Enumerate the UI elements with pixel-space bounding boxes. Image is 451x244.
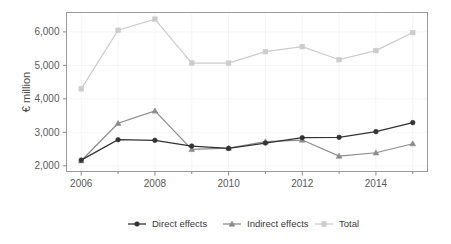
data-point — [374, 48, 379, 53]
y-tick-label: 6,000 — [34, 26, 59, 37]
data-point — [322, 222, 327, 227]
data-point — [135, 222, 140, 227]
data-point — [153, 17, 158, 22]
x-tick-label: 2012 — [291, 178, 314, 189]
data-point — [153, 138, 158, 143]
legend-label: Indirect effects — [247, 218, 309, 229]
data-point — [189, 61, 194, 66]
data-point — [263, 141, 268, 146]
data-point — [79, 158, 84, 163]
data-point — [300, 135, 305, 140]
data-point — [116, 28, 121, 33]
data-point — [410, 30, 415, 35]
data-point — [410, 120, 415, 125]
figure-background — [0, 0, 451, 244]
x-tick-label: 2006 — [70, 178, 93, 189]
y-tick-label: 2,000 — [34, 160, 59, 171]
data-point — [79, 87, 84, 92]
data-point — [226, 61, 231, 66]
y-tick-label: 5,000 — [34, 60, 59, 71]
line-chart-figure: 2,0003,0004,0005,0006,000 20062008201020… — [0, 0, 451, 244]
x-tick-label: 2010 — [217, 178, 240, 189]
x-tick-label: 2014 — [365, 178, 388, 189]
data-point — [337, 57, 342, 62]
data-point — [300, 44, 305, 49]
data-point — [116, 137, 121, 142]
data-point — [374, 129, 379, 134]
y-tick-label: 4,000 — [34, 93, 59, 104]
data-point — [189, 144, 194, 149]
data-point — [337, 135, 342, 140]
x-tick-label: 2008 — [144, 178, 167, 189]
data-point — [263, 49, 268, 54]
data-point — [226, 146, 231, 151]
y-tick-label: 3,000 — [34, 127, 59, 138]
legend-label: Direct effects — [152, 218, 208, 229]
legend-label: Total — [339, 218, 359, 229]
y-axis-title: € million — [20, 72, 32, 112]
